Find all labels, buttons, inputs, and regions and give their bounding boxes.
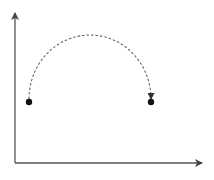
diagram-svg (0, 0, 214, 180)
diagram-canvas (0, 0, 214, 180)
dashed-arc-arrow (29, 35, 151, 99)
end-point (148, 99, 154, 105)
start-point (26, 99, 32, 105)
